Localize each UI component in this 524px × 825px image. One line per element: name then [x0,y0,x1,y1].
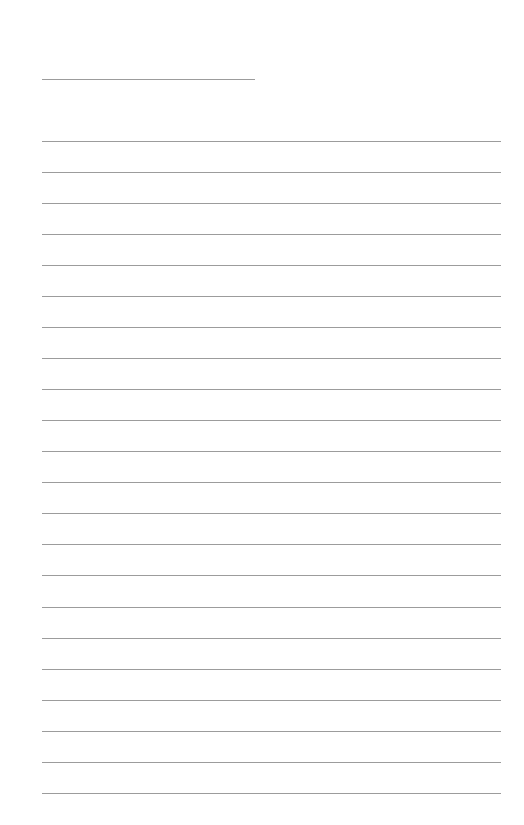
ruled-line [42,544,501,545]
ruled-line [42,172,501,173]
ruled-line [42,700,501,701]
ruled-line [42,638,501,639]
ruled-line [42,327,501,328]
ruled-line [42,420,501,421]
ruled-line [42,731,501,732]
ruled-line [42,203,501,204]
ruled-line [42,575,501,576]
ruled-line [42,389,501,390]
ruled-line [42,451,501,452]
ruled-line [42,513,501,514]
ruled-line [42,358,501,359]
ruled-line [42,793,501,794]
ruled-line [42,265,501,266]
ruled-line [42,296,501,297]
ruled-line [42,482,501,483]
ruled-line [42,234,501,235]
ruled-line [42,607,501,608]
ruled-line [42,762,501,763]
ruled-line [42,141,501,142]
ruled-line [42,669,501,670]
lined-paper-sheet [0,0,524,825]
title-line [42,79,255,80]
